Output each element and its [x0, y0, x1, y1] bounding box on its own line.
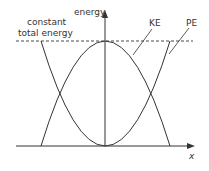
- pe-label: PE: [186, 18, 197, 28]
- total-energy-label-line2: total energy: [18, 28, 73, 38]
- y-axis-label: energy: [74, 7, 106, 17]
- x-axis-label: x: [188, 151, 195, 161]
- total-energy-label-line1: constant: [27, 17, 67, 27]
- ke-label: KE: [149, 18, 161, 28]
- energy-diagram: energy constant total energy KE PE x: [0, 0, 209, 171]
- x-axis-arrow-icon: [187, 143, 195, 149]
- ke-leader-line: [133, 29, 152, 55]
